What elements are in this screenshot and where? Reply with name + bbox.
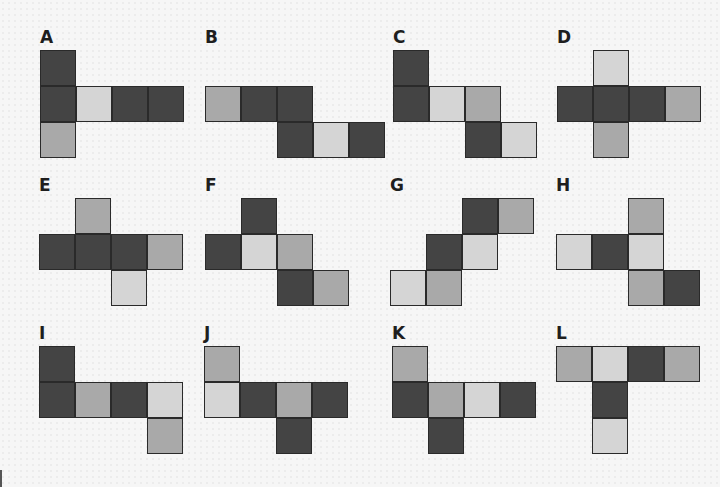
net-face (241, 198, 277, 234)
net-face (429, 86, 465, 122)
net-face (205, 86, 241, 122)
net-face (75, 382, 111, 418)
net-label: G (390, 177, 404, 194)
net-face (39, 234, 75, 270)
net-face (426, 270, 462, 306)
net-face (664, 346, 700, 382)
net-face (628, 234, 664, 270)
net-face (593, 122, 629, 158)
net-face (39, 382, 75, 418)
net-label: K (392, 325, 405, 342)
net-face (241, 234, 277, 270)
net-face (75, 234, 111, 270)
net-face (277, 86, 313, 122)
net-face (593, 86, 629, 122)
edge-mark (0, 470, 2, 487)
net-label: B (205, 29, 218, 46)
net-label: F (205, 177, 217, 194)
net-face (664, 270, 700, 306)
net-face (349, 122, 385, 158)
net-face (147, 234, 183, 270)
net-label: L (556, 325, 567, 342)
net-face (312, 382, 348, 418)
net-face (556, 234, 592, 270)
net-face (204, 346, 240, 382)
net-face (500, 382, 536, 418)
net-label: A (40, 29, 53, 46)
net-face (428, 418, 464, 454)
net-face (592, 346, 628, 382)
net-face (277, 122, 313, 158)
net-face (241, 86, 277, 122)
net-face (39, 346, 75, 382)
net-face (276, 418, 312, 454)
net-face (501, 122, 537, 158)
net-face (313, 122, 349, 158)
net-face (205, 234, 241, 270)
net-face (593, 50, 629, 86)
net-face (557, 86, 593, 122)
net-face (76, 86, 112, 122)
net-label: J (204, 325, 210, 342)
net-face (111, 382, 147, 418)
net-face (40, 86, 76, 122)
net-face (628, 270, 664, 306)
net-face (147, 382, 183, 418)
net-face (462, 198, 498, 234)
net-face (592, 234, 628, 270)
net-face (277, 234, 313, 270)
net-face (465, 122, 501, 158)
net-face (465, 86, 501, 122)
net-face (392, 382, 428, 418)
net-face (592, 418, 628, 454)
net-face (40, 122, 76, 158)
net-face (148, 86, 184, 122)
net-face (393, 86, 429, 122)
net-face (628, 346, 664, 382)
net-label: I (39, 325, 45, 342)
net-face (204, 382, 240, 418)
net-label: C (393, 29, 405, 46)
net-face (556, 346, 592, 382)
net-face (628, 198, 664, 234)
net-face (629, 86, 665, 122)
net-face (111, 270, 147, 306)
net-face (276, 382, 312, 418)
net-face (592, 382, 628, 418)
net-face (240, 382, 276, 418)
net-face (498, 198, 534, 234)
net-face (428, 382, 464, 418)
net-label: E (39, 177, 51, 194)
net-face (111, 234, 147, 270)
net-face (75, 198, 111, 234)
net-face (464, 382, 500, 418)
net-label: H (556, 177, 570, 194)
net-face (147, 418, 183, 454)
net-label: D (557, 29, 571, 46)
net-face (426, 234, 462, 270)
net-face (277, 270, 313, 306)
net-face (313, 270, 349, 306)
net-face (390, 270, 426, 306)
net-face (392, 346, 428, 382)
net-face (665, 86, 701, 122)
net-face (112, 86, 148, 122)
net-face (393, 50, 429, 86)
net-face (462, 234, 498, 270)
net-face (40, 50, 76, 86)
